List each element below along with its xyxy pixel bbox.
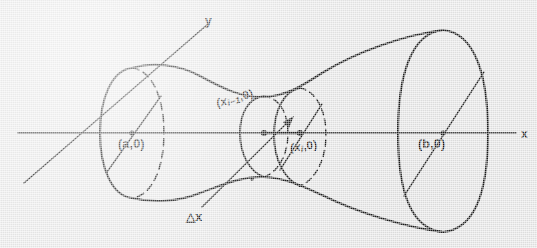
center-dot-x-i-minus-1	[261, 130, 267, 136]
label-delta-x: △x	[186, 210, 202, 224]
disk-x-i-radius-line	[280, 104, 322, 170]
label-x-i-minus-1-suffix: ,0)	[238, 87, 255, 102]
lower-profile-curve	[132, 177, 443, 232]
solid-of-revolution-drawing	[0, 0, 537, 248]
right-end-disk-back-arc	[443, 30, 488, 232]
right-end-disk-front-arc	[398, 30, 443, 232]
label-x-i-suffix: ,0)	[302, 138, 317, 152]
delta-triangle-icon: △	[186, 210, 195, 224]
disk-x-i-minus-1-back-arc	[264, 96, 288, 177]
label-x-i-prefix: (x	[289, 140, 301, 153]
lower-profile-intersection-dot	[250, 177, 254, 181]
label-x-axis: x	[521, 127, 528, 141]
center-dot-a	[129, 130, 134, 135]
label-point-a: (a,0)	[118, 137, 145, 151]
center-dot-x-i	[297, 130, 303, 136]
label-y-axis: y	[205, 14, 212, 28]
delta-x-variable: x	[195, 210, 202, 224]
label-point-b: (b,0)	[418, 137, 445, 151]
figure-canvas: (a,0) (b,0) (xi−1,0) (xi,0) y x △x	[0, 0, 537, 248]
center-dot-b	[440, 130, 445, 135]
disk-x-i-back-arc	[300, 88, 326, 186]
upper-profile-curve	[132, 30, 443, 97]
